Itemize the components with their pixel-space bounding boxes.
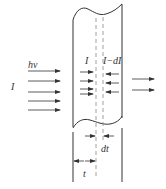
top-wavy-edge [73, 4, 122, 20]
slab [73, 4, 122, 182]
incident-intensity-label: I [10, 81, 15, 92]
transmitted-light-arrows [132, 79, 154, 90]
layer-thickness-label: dt [101, 143, 109, 154]
diagram-svg: hν I I I−dI dt t [0, 0, 166, 189]
break-wavy-edge [73, 116, 122, 128]
layer-out-arrows [106, 74, 119, 92]
incident-light-arrows [28, 71, 60, 110]
photon-energy-label: hν [28, 59, 38, 70]
depth-label: t [83, 168, 86, 179]
attenuated-intensity-label: I−dI [102, 55, 122, 66]
absorption-diagram: hν I I I−dI dt t [0, 0, 166, 189]
layer-intensity-label: I [84, 55, 89, 66]
layer-in-arrows [80, 72, 93, 94]
